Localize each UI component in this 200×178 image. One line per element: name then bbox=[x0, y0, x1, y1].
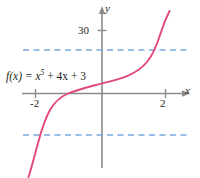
x-axis-label: x bbox=[185, 85, 190, 96]
x-tick-label-neg2: -2 bbox=[30, 98, 39, 109]
function-graph-figure: f(x) = x5 + 4x + 3 30 -2 2 y x bbox=[0, 0, 200, 178]
plot-canvas bbox=[0, 0, 200, 178]
y-axis-label: y bbox=[105, 3, 110, 14]
function-equation-label: f(x) = x5 + 4x + 3 bbox=[6, 71, 86, 83]
function-equation-suffix: + 4x + 3 bbox=[44, 70, 86, 82]
x-tick-label-2: 2 bbox=[160, 98, 166, 109]
function-equation-prefix: f(x) = x bbox=[6, 70, 41, 82]
y-tick-label-30: 30 bbox=[78, 25, 89, 36]
